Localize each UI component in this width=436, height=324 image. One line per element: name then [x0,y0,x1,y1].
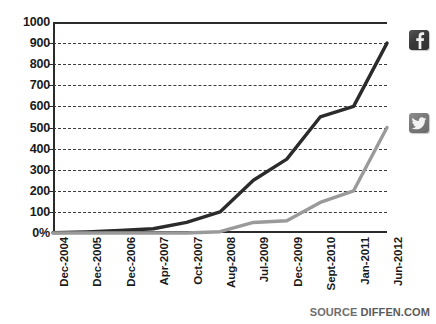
series-line-twitter [53,128,387,234]
y-axis-tick-label: 400 [2,142,50,155]
x-axis-labels: Dec-2004Dec-2005Dec-2006Apr-2007Oct-2007… [53,237,387,317]
y-axis-labels: 0%1002003004005006007008009001000 [0,0,50,324]
x-axis-tick-label: Dec-2004 [58,237,70,287]
source-prefix: SOURCE [310,306,358,318]
y-axis-tick-label: 1000 [2,16,50,29]
x-axis-tick-label: Dec-2005 [91,237,103,287]
y-axis-tick-label: 100 [2,206,50,219]
y-axis-tick-label: 900 [2,37,50,50]
y-axis-tick-label: 700 [2,79,50,92]
y-axis-tick-label: 800 [2,58,50,71]
line-chart: 0%1002003004005006007008009001000 Dec-20… [0,0,436,324]
x-axis-tick-label: Jun-2012 [392,237,404,286]
x-axis-tick-label: Dec-2006 [125,237,137,287]
source-credit: SOURCE DIFFEN.COM [310,306,430,318]
plot-area [53,22,387,233]
x-axis-tick-label: Apr-2007 [158,237,170,285]
y-axis-tick-label: 500 [2,121,50,134]
series-lines [53,22,387,233]
x-axis-tick-label: Jul-2009 [258,237,270,282]
y-axis-tick-label: 300 [2,163,50,176]
x-axis-tick-label: Sept-2010 [325,237,337,290]
x-axis-tick-label: Dec-2009 [292,237,304,287]
y-axis-tick-label: 0% [2,227,50,240]
twitter-icon[interactable] [409,113,429,133]
x-axis-tick-label: Aug-2008 [225,237,237,288]
x-axis-tick-label: Jan-2011 [359,237,371,285]
y-axis-tick-label: 600 [2,100,50,113]
source-name: DIFFEN.COM [361,306,430,318]
y-axis-tick-label: 200 [2,185,50,198]
x-axis-tick-label: Oct-2007 [192,237,204,285]
series-line-facebook [53,43,387,233]
facebook-icon[interactable] [409,30,429,50]
